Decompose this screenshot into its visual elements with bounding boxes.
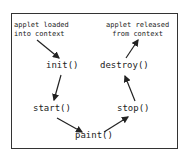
arrows-layer	[0, 0, 191, 156]
arrow-stop-to-destroy-icon	[125, 76, 135, 101]
arrow-init-to-start-icon	[54, 75, 61, 100]
arrow-paint-to-stop-icon	[104, 117, 128, 132]
arrow-start-to-paint-icon	[57, 118, 82, 132]
arrow-loaded-to-init-icon	[37, 40, 59, 58]
arrow-destroy-to-released-icon	[126, 40, 138, 58]
